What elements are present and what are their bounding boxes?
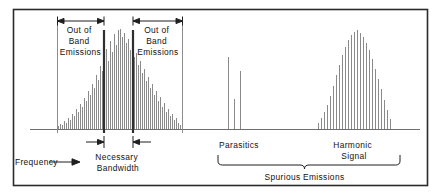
necessary-bandwidth-label: Necessary Bandwidth — [95, 152, 140, 173]
frequency-axis-label: Frequency — [15, 157, 58, 167]
spurious-emissions-label: Spurious Emissions — [265, 172, 345, 182]
spectrum-emissions-figure: Out of Band Emissions Out of Band Emissi… — [0, 0, 439, 195]
parasitics-label: Parasitics — [219, 140, 259, 150]
